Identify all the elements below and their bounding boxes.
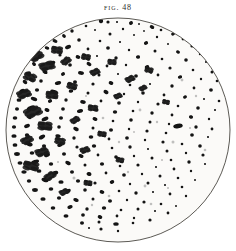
specimen-particle: [142, 200, 145, 203]
specimen-particle: [105, 172, 108, 175]
specimen-particle: [165, 132, 168, 135]
specimen-particle: [87, 48, 90, 51]
specimen-particle: [59, 116, 63, 119]
specimen-particle: [87, 92, 90, 95]
specimen-particle: [147, 182, 150, 185]
specimen-particle: [49, 187, 54, 191]
specimen-particle: [211, 128, 214, 131]
specimen-particle: [138, 23, 140, 25]
specimen-particle: [161, 58, 164, 61]
specimen-particle: [139, 109, 142, 112]
specimen-particle: [181, 143, 184, 146]
specimen-particle: [57, 125, 61, 128]
specimen-particle: [83, 188, 87, 191]
specimen-particle: [120, 209, 123, 212]
specimen-particle: [141, 173, 143, 175]
specimen-particle: [164, 184, 166, 186]
specimen-particle: [214, 109, 216, 111]
specimen-particle: [126, 199, 128, 201]
specimen-particle: [204, 163, 206, 165]
specimen-particle: [57, 161, 59, 163]
specimen-particle: [170, 84, 173, 87]
specimen-particle: [13, 116, 18, 120]
specimen-particle: [198, 144, 202, 147]
specimen-particle: [122, 173, 126, 176]
specimen-particle: [73, 177, 76, 180]
specimen-particle: [129, 118, 133, 121]
specimen-particle: [70, 29, 73, 32]
specimen-particle: [204, 149, 207, 152]
specimen-particle: [75, 145, 78, 148]
specimen-particle: [145, 129, 148, 132]
specimen-particle: [81, 213, 85, 216]
specimen-particle: [108, 199, 112, 202]
specimen-particle: [77, 38, 81, 41]
specimen-particle: [100, 100, 103, 103]
specimen-particle: [57, 196, 61, 200]
specimen-particle: [181, 186, 184, 189]
specimen-particle: [92, 198, 95, 201]
specimen-particle: [72, 136, 75, 139]
specimen-particle: [113, 110, 117, 114]
specimen-particle: [113, 222, 119, 226]
specimen-particle: [108, 138, 111, 141]
specimen-particle: [134, 74, 138, 77]
specimen-particle: [187, 160, 190, 163]
specimen-particle: [27, 179, 31, 183]
specimen-particle: [118, 190, 121, 193]
specimen-particle: [128, 128, 130, 130]
specimen-particle: [127, 171, 129, 173]
specimen-particle: [109, 128, 113, 131]
specimen-particle: [207, 136, 209, 138]
specimen-particle: [100, 162, 104, 166]
specimen-particle: [190, 133, 194, 136]
specimen-particle: [106, 46, 110, 49]
specimen-particle: [14, 152, 20, 156]
specimen-particle: [150, 203, 153, 206]
specimen-particle: [129, 183, 131, 185]
specimen-particle: [39, 79, 43, 82]
specimen-particle: [15, 107, 19, 110]
specimen-particle: [144, 185, 147, 188]
specimen-particle: [168, 123, 170, 125]
specimen-particle: [134, 191, 137, 194]
specimen-particle: [193, 87, 196, 90]
specimen-particle: [119, 165, 122, 168]
specimen-particle: [116, 21, 118, 23]
specimen-particle: [157, 74, 160, 77]
specimen-particle: [35, 88, 39, 92]
specimen-particle: [144, 139, 146, 141]
specimen-particle: [177, 105, 180, 108]
specimen-particle: [125, 64, 127, 66]
specimen-particle: [102, 206, 106, 210]
specimen-particle: [192, 69, 195, 72]
specimen-particle: [129, 84, 132, 87]
specimen-particle: [200, 78, 202, 80]
specimen-particle: [169, 193, 172, 196]
specimen-particle: [133, 217, 135, 219]
specimen-particle: [201, 153, 204, 156]
specimen-field-svg: [0, 0, 236, 251]
specimen-particle: [137, 208, 140, 211]
specimen-particle: [168, 66, 171, 69]
specimen-particle: [106, 65, 109, 68]
specimen-particle: [171, 114, 174, 117]
specimen-particle: [13, 143, 18, 147]
specimen-particle: [184, 58, 188, 61]
specimen-particle: [18, 161, 23, 165]
specimen-particle: [108, 195, 111, 198]
specimen-particle: [136, 163, 139, 166]
specimen-particle: [125, 136, 129, 139]
specimen-particle: [181, 79, 184, 82]
specimen-particle: [98, 221, 101, 224]
specimen-particle: [118, 141, 120, 143]
specimen-particle: [85, 207, 88, 210]
specimen-particle: [133, 131, 135, 133]
specimen-particle: [154, 210, 156, 212]
specimen-particle: [51, 206, 56, 210]
specimen-particle: [117, 101, 121, 104]
specimen-particle: [91, 204, 93, 206]
specimen-particle: [133, 155, 135, 157]
specimen-particle: [117, 230, 119, 232]
specimen-particle: [172, 141, 175, 144]
